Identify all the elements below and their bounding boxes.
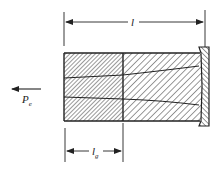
overall-length-dimension xyxy=(64,10,205,47)
force-label: Pe xyxy=(21,93,32,108)
overall-length-label: l xyxy=(131,16,134,28)
tapered-section xyxy=(123,53,201,121)
gauge-section xyxy=(64,53,123,121)
gauge-length-label: lg xyxy=(92,145,99,160)
diagram-canvas: l lg Pe xyxy=(0,0,220,170)
